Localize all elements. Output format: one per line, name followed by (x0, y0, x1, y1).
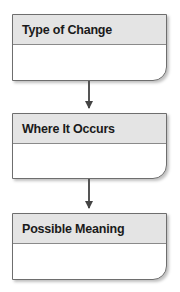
box-where-it-occurs: Where It Occurs (12, 113, 167, 179)
box-content-field[interactable] (13, 244, 166, 279)
box-possible-meaning: Possible Meaning (12, 213, 167, 280)
box-content-field[interactable] (13, 144, 166, 179)
box-type-of-change: Type of Change (12, 14, 167, 81)
box-title: Where It Occurs (13, 114, 166, 144)
arrow-connector-2 (88, 179, 90, 208)
box-content-field[interactable] (13, 45, 166, 80)
box-title: Type of Change (13, 15, 166, 45)
arrow-connector-1 (88, 81, 90, 108)
box-title: Possible Meaning (13, 214, 166, 244)
